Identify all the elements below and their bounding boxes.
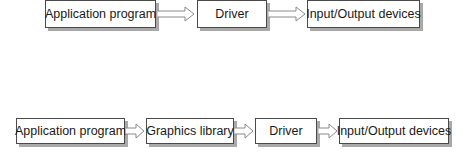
io-devices-label: Input/Output devices — [306, 7, 421, 21]
io-devices-label: Input/Output devices — [337, 124, 452, 138]
driver-box-row2: Driver — [255, 118, 317, 144]
io-devices-box-row1: Input/Output devices — [307, 0, 420, 28]
application-program-box-row2: Application program — [16, 118, 125, 144]
driver-label: Driver — [269, 124, 302, 138]
arrow-icon — [157, 6, 195, 22]
application-program-label: Application program — [45, 7, 156, 21]
io-devices-box-row2: Input/Output devices — [339, 118, 449, 144]
driver-box-row1: Driver — [197, 0, 267, 28]
flow-diagram: Application program Driver Input/Output … — [0, 0, 471, 158]
arrow-icon — [268, 6, 306, 22]
graphics-library-label: Graphics library — [146, 124, 234, 138]
arrow-icon — [234, 123, 254, 139]
application-program-box-row1: Application program — [45, 0, 156, 28]
driver-label: Driver — [215, 7, 248, 21]
graphics-library-box-row2: Graphics library — [146, 118, 234, 144]
application-program-label: Application program — [15, 124, 126, 138]
arrow-icon — [318, 123, 338, 139]
arrow-icon — [125, 123, 145, 139]
